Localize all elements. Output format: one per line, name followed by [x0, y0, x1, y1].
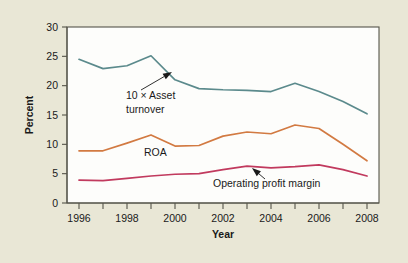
line-chart: 051015202530 199619982000200220042006200… [0, 0, 408, 263]
x-tick-label: 1998 [115, 212, 139, 224]
y-axis-title: Percent [23, 95, 35, 134]
annotation-roa: ROA [144, 146, 167, 158]
x-tick-label: 2004 [259, 212, 283, 224]
x-tick-label: 2000 [163, 212, 187, 224]
figure-container: 051015202530 199619982000200220042006200… [0, 0, 408, 263]
y-tick-label: 30 [46, 21, 58, 33]
y-tick-label: 10 [46, 138, 58, 150]
x-tick-label: 2008 [355, 212, 379, 224]
x-tick-label: 1996 [67, 212, 91, 224]
y-tick-label: 25 [46, 50, 58, 62]
annotation-operating-profit-margin: Operating profit margin [213, 177, 321, 189]
y-tick-label: 15 [46, 109, 58, 121]
x-tick-label: 2002 [211, 212, 235, 224]
y-tick-label: 20 [46, 79, 58, 91]
y-tick-label: 0 [52, 197, 58, 209]
y-tick-label: 5 [52, 167, 58, 179]
x-axis-title: Year [212, 228, 234, 240]
x-tick-label: 2006 [307, 212, 331, 224]
